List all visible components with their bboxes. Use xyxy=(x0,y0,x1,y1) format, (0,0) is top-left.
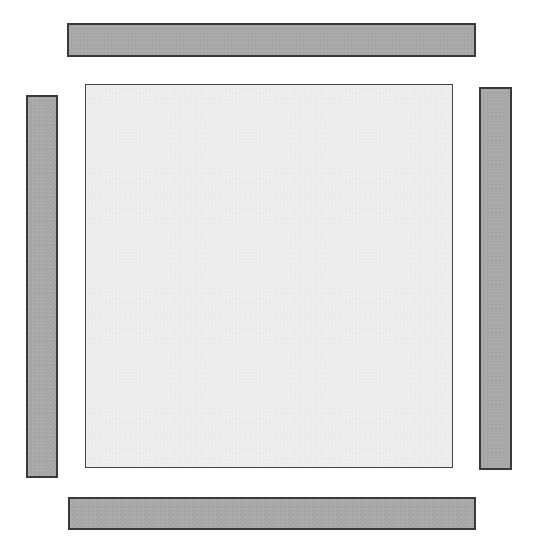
top-bar xyxy=(67,23,476,57)
left-bar xyxy=(26,95,58,478)
center-square xyxy=(85,84,453,468)
right-bar xyxy=(479,87,512,470)
bottom-bar xyxy=(68,497,476,530)
